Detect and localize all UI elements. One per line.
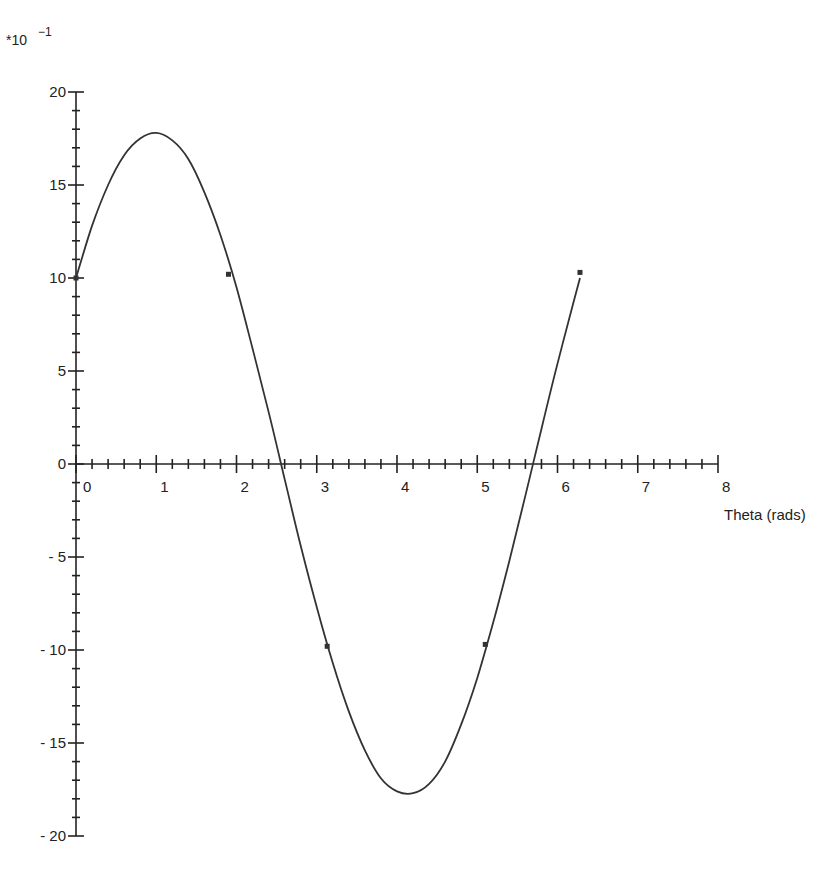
y-tick-label: 15 xyxy=(49,176,66,193)
y-multiplier-exponent: −1 xyxy=(38,25,52,39)
data-point-marker xyxy=(226,272,231,277)
x-tick-label: 7 xyxy=(642,478,650,495)
y-tick-label: 10 xyxy=(49,269,66,286)
x-tick-label: 5 xyxy=(481,478,489,495)
y-tick-label: - 15 xyxy=(40,734,66,751)
x-tick-label: 6 xyxy=(562,478,570,495)
data-markers xyxy=(74,270,583,649)
axes xyxy=(68,92,718,836)
y-tick-label: 0 xyxy=(58,455,66,472)
y-tick-label: - 10 xyxy=(40,641,66,658)
y-tick-label: 20 xyxy=(49,83,66,100)
x-axis-title: Theta (rads) xyxy=(724,506,806,523)
y-tick-label: 5 xyxy=(58,362,66,379)
data-point-marker xyxy=(74,276,79,281)
data-point-marker xyxy=(483,642,488,647)
data-point-marker xyxy=(325,644,330,649)
x-tick-label: 4 xyxy=(401,478,409,495)
x-tick-label: 1 xyxy=(160,478,168,495)
y-axis-multiplier: *10 −1 xyxy=(6,25,52,48)
x-tick-label: 8 xyxy=(722,478,730,495)
y-tick-label: - 5 xyxy=(48,548,66,565)
x-tick-label: 3 xyxy=(321,478,329,495)
y-multiplier-base: *10 xyxy=(6,32,27,48)
y-tick-label: - 20 xyxy=(40,827,66,844)
data-point-marker xyxy=(577,270,582,275)
x-tick-label: 2 xyxy=(241,478,249,495)
x-tick-labels: 012345678 xyxy=(83,478,730,495)
x-tick-label: 0 xyxy=(83,478,91,495)
y-tick-labels: 20151050- 5- 10- 15- 20 xyxy=(40,83,66,844)
chart: *10 −1 012345678 20151050- 5- 10- 15- 20… xyxy=(0,0,833,869)
